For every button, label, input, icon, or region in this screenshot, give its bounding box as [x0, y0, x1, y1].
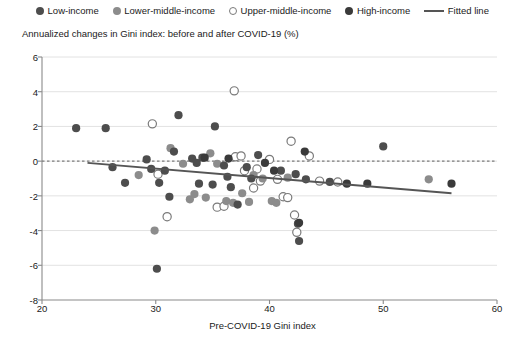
y-tick-label--4: -4 [30, 225, 38, 236]
data-point [425, 175, 433, 183]
data-point [254, 151, 262, 159]
legend-item-high-income[interactable]: High-income [345, 6, 410, 16]
x-tick-label-30: 30 [150, 303, 161, 314]
data-point [245, 198, 253, 206]
legend-item-lower-middle-income[interactable]: Lower-middle-income [113, 6, 215, 16]
data-point [161, 167, 169, 175]
data-point [243, 163, 251, 171]
fitted-regression-line [88, 163, 452, 193]
data-point [224, 154, 232, 162]
data-point [447, 180, 455, 188]
data-point [148, 120, 156, 128]
data-point [179, 160, 187, 168]
legend-item-fitted-line[interactable]: Fitted line [424, 6, 489, 16]
data-point [295, 237, 303, 245]
data-point [284, 193, 292, 201]
data-point [163, 213, 171, 221]
series-low-income [72, 111, 387, 273]
data-point [292, 170, 300, 178]
legend-item-label: Fitted line [448, 6, 489, 16]
x-tick-label-60: 60 [492, 303, 503, 314]
data-point [135, 171, 143, 179]
x-axis-title: Pre-COVID-19 Gini index [0, 320, 525, 331]
data-point [174, 111, 182, 119]
data-point [290, 211, 298, 219]
data-point [201, 154, 209, 162]
y-tick-label--6: -6 [30, 260, 38, 271]
data-point [270, 167, 278, 175]
x-axis-tick-labels: 2030405060 [42, 303, 497, 317]
chart-legend: Low-incomeLower-middle-incomeUpper-middl… [0, 6, 525, 16]
data-point [227, 183, 235, 191]
legend-item-label: Lower-middle-income [124, 6, 215, 16]
y-tick-label-6: 6 [33, 52, 38, 63]
plot-canvas [42, 57, 497, 300]
series-lower-middle-income [135, 144, 433, 235]
data-point [151, 226, 159, 234]
data-point [209, 180, 217, 188]
data-point [261, 159, 269, 167]
data-point [272, 199, 280, 207]
x-tick-label-50: 50 [378, 303, 389, 314]
legend-item-label: Upper-middle-income [241, 6, 332, 16]
legend-item-low-income[interactable]: Low-income [36, 6, 99, 16]
filled-circle-swatch-icon [113, 7, 121, 15]
data-point [213, 160, 221, 168]
y-axis-title: Annualized changes in Gini index: before… [22, 28, 299, 39]
data-point [195, 180, 203, 188]
data-point [293, 228, 301, 236]
x-tick-label-40: 40 [264, 303, 275, 314]
data-point [230, 87, 238, 95]
data-point [121, 179, 129, 187]
data-point [155, 179, 163, 187]
plot-area [42, 57, 497, 300]
data-point [102, 124, 110, 132]
y-tick-label--2: -2 [30, 190, 38, 201]
open-circle-swatch-icon [229, 7, 237, 15]
data-point [190, 190, 198, 198]
filled-circle-swatch-icon [36, 7, 44, 15]
y-tick-label-4: 4 [33, 86, 38, 97]
filled-circle-swatch-icon [345, 7, 353, 15]
fitted-line-swatch-icon [424, 10, 444, 12]
data-point [143, 155, 151, 163]
data-point [295, 219, 303, 227]
data-point [170, 147, 178, 155]
scatter-chart-figure: Low-incomeLower-middle-incomeUpper-middl… [0, 0, 525, 348]
data-point [220, 161, 228, 169]
data-point [249, 184, 257, 192]
y-axis-tick-labels: -8-6-4-20246 [14, 57, 38, 300]
data-point [72, 124, 80, 132]
data-point [165, 193, 173, 201]
legend-item-upper-middle-income[interactable]: Upper-middle-income [229, 6, 331, 16]
y-tick-label-2: 2 [33, 121, 38, 132]
data-point [287, 137, 295, 145]
data-point [153, 265, 161, 273]
data-point [222, 197, 230, 205]
legend-item-label: High-income [357, 6, 410, 16]
data-point [379, 142, 387, 150]
data-point [211, 122, 219, 130]
data-point [234, 200, 242, 208]
data-point [301, 147, 309, 155]
y-tick-label-0: 0 [33, 156, 38, 167]
data-point [202, 193, 210, 201]
legend-item-label: Low-income [48, 6, 99, 16]
x-tick-label-20: 20 [37, 303, 48, 314]
data-point [237, 152, 245, 160]
data-point [238, 189, 246, 197]
